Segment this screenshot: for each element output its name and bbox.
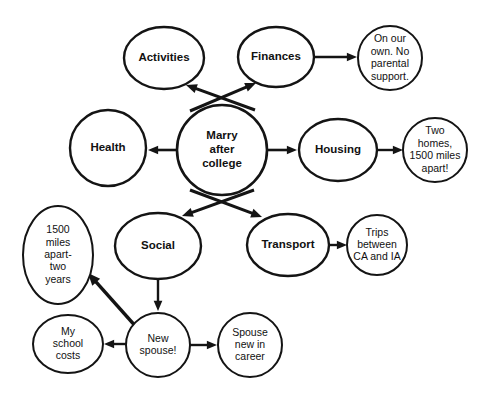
diagram-canvas: MarryaftercollegeActivitiesFinancesHealt… — [0, 0, 484, 400]
node-label-line: Trips — [366, 225, 389, 237]
node-newspouse[interactable]: Newspouse! — [126, 313, 190, 377]
node-social[interactable]: Social — [115, 213, 201, 279]
concept-map-svg: MarryaftercollegeActivitiesFinancesHealt… — [0, 0, 484, 400]
node-label-line: Marry — [206, 129, 238, 141]
node-label-line: New — [147, 332, 168, 344]
node-onourown[interactable]: On ourown. Noparentalsupport. — [358, 26, 422, 90]
node-label-line: spouse! — [140, 344, 177, 356]
node-transport[interactable]: Transport — [247, 214, 329, 276]
node-label-line: My — [61, 324, 76, 336]
node-label-transport: Transport — [261, 238, 314, 250]
node-label-social: Social — [141, 239, 175, 251]
node-label-line: homes, — [418, 137, 452, 149]
node-label-line: Two — [425, 124, 444, 136]
node-label-line: after — [210, 143, 235, 155]
node-label-finances: Finances — [251, 50, 301, 62]
node-label-line: own. No — [371, 45, 410, 57]
node-twohomes[interactable]: Twohomes,1500 milesapart! — [403, 118, 467, 182]
node-label-line: Finances — [251, 50, 301, 62]
node-housing[interactable]: Housing — [299, 119, 377, 181]
node-milesapart[interactable]: 1500milesapart-twoyears — [23, 206, 93, 304]
node-trips[interactable]: TripsbetweenCA and IA — [347, 215, 407, 275]
node-label-line: CA and IA — [353, 250, 400, 262]
node-label-line: Health — [90, 141, 125, 153]
node-label-milesapart: 1500milesapart-twoyears — [44, 223, 72, 285]
node-label-line: college — [202, 157, 242, 169]
node-label-health: Health — [90, 141, 125, 153]
node-activities[interactable]: Activities — [124, 27, 204, 89]
node-label-spousenew: Spousenew incareer — [232, 325, 268, 362]
node-label-line: On our — [374, 32, 407, 44]
node-health[interactable]: Health — [70, 110, 146, 186]
node-label-line: miles — [46, 235, 71, 247]
node-finances[interactable]: Finances — [238, 27, 314, 87]
node-marry[interactable]: Marryaftercollege — [177, 105, 267, 195]
node-label-line: parental — [371, 57, 409, 69]
node-label-line: apart! — [422, 161, 449, 173]
node-label-line: 1500 — [46, 223, 70, 235]
node-label-line: between — [357, 238, 397, 250]
node-label-line: Transport — [261, 238, 314, 250]
node-label-line: Spouse — [232, 325, 268, 337]
node-label-line: costs — [56, 349, 81, 361]
node-label-line: two — [50, 260, 67, 272]
node-spousenew[interactable]: Spousenew incareer — [218, 313, 282, 377]
node-label-onourown: On ourown. Noparentalsupport. — [371, 32, 410, 81]
node-label-line: school — [53, 337, 83, 349]
node-label-line: Social — [141, 239, 175, 251]
node-label-activities: Activities — [138, 51, 189, 63]
node-label-line: new in — [235, 338, 266, 350]
node-label-line: support. — [371, 69, 409, 81]
node-label-line: apart- — [44, 248, 72, 260]
node-label-line: 1500 miles — [410, 149, 461, 161]
node-label-line: career — [235, 350, 265, 362]
node-label-housing: Housing — [315, 143, 361, 155]
node-label-line: Activities — [138, 51, 189, 63]
node-schoolcosts[interactable]: Myschoolcosts — [33, 315, 103, 373]
node-label-line: years — [45, 273, 71, 285]
node-label-line: Housing — [315, 143, 361, 155]
